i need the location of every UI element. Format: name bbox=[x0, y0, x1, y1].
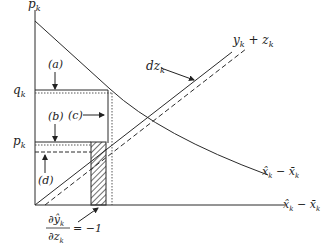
x-axis-label: x̂k − x̄k bbox=[283, 198, 320, 213]
derivative-annotation: ∂ŷk ∂zk = −1 bbox=[46, 213, 102, 245]
hatched-region bbox=[91, 142, 106, 205]
svg-text:= −1: = −1 bbox=[73, 222, 102, 235]
arrow-derivative bbox=[78, 208, 98, 222]
yz-label: yk + zk bbox=[232, 33, 274, 49]
dz-label: dzk bbox=[146, 59, 165, 75]
supply-line-solid bbox=[35, 52, 232, 205]
diagram-canvas: pk qk pk (a) (b) (c) (d) dzk yk + zk x̂k… bbox=[0, 0, 333, 248]
curve-label: x̂k − x̄k bbox=[262, 165, 299, 180]
arrow-dz bbox=[161, 68, 194, 80]
label-c: (c) bbox=[68, 109, 83, 122]
y-axis-label: pk bbox=[28, 0, 41, 13]
label-b: (b) bbox=[48, 110, 64, 123]
label-a: (a) bbox=[48, 58, 63, 71]
svg-text:∂zk: ∂zk bbox=[48, 230, 64, 245]
p-level-label: pk bbox=[13, 134, 26, 150]
svg-text:∂ŷk: ∂ŷk bbox=[48, 213, 64, 228]
q-level-label: qk bbox=[13, 83, 26, 99]
label-d: (d) bbox=[38, 174, 54, 187]
